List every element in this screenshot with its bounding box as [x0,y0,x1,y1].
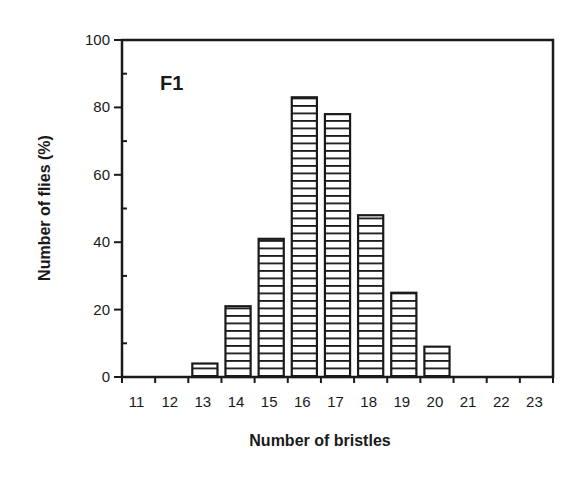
x-tick-label: 20 [427,393,444,410]
x-tick-label: 23 [526,393,543,410]
bar-15 [259,239,284,377]
y-tick-label: 60 [93,166,110,183]
x-tick-label: 13 [195,393,212,410]
bars-group [192,97,449,377]
x-tick-label: 19 [393,393,410,410]
panel-label: F1 [160,72,183,94]
bar-13 [192,364,217,377]
y-tick-label: 0 [102,368,110,385]
y-axis: 020406080100 [85,31,127,385]
x-tick-label: 14 [228,393,245,410]
x-tick-label: 18 [360,393,377,410]
x-tick-label: 11 [129,393,145,410]
y-tick-label: 40 [93,233,110,250]
bar-19 [391,293,416,377]
x-tick-label: 16 [294,393,311,410]
bar-chart: 020406080100 11121314151617181920212223 … [0,0,581,479]
bar-14 [225,306,250,377]
bar-20 [424,347,449,377]
x-axis-title: Number of bristles [249,432,390,449]
x-tick-label: 15 [261,393,278,410]
bar-16 [292,97,317,377]
bar-18 [358,215,383,377]
x-tick-label: 17 [327,393,344,410]
y-tick-label: 20 [93,301,110,318]
x-tick-label: 22 [493,393,510,410]
y-tick-label: 100 [85,31,110,48]
y-tick-label: 80 [93,98,110,115]
x-tick-label: 12 [161,393,178,410]
y-axis-title: Number of flies (%) [36,135,53,281]
x-axis: 11121314151617181920212223 [122,377,553,410]
bar-17 [325,114,350,377]
x-tick-label: 21 [460,393,477,410]
